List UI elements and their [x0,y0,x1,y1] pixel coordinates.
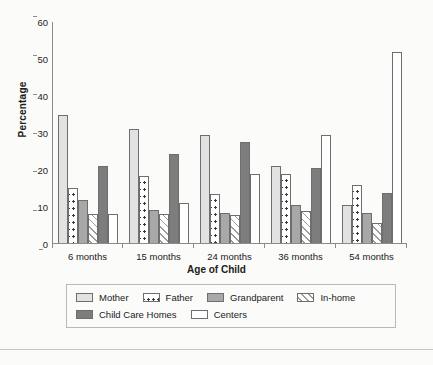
bar-54-months-centers [392,52,402,244]
bar-24-months-mother [200,135,210,244]
x-tick-mark [52,244,53,248]
bar-36-months-grandparent [291,205,301,244]
x-tick-label: 36 months [278,251,322,262]
x-tick-mark [264,244,265,248]
plot-area: Percentage 0102030405060 6 months15 mont… [0,0,433,285]
bar-24-months-child-care-homes [240,142,250,244]
legend-item-grandparent[interactable]: Grandparent [207,292,283,303]
bar-group-36-months: 36 months [265,22,336,244]
y-tick-label: 0 [43,239,48,250]
bar-54-months-child-care-homes [382,193,392,244]
bar-group-24-months: 24 months [194,22,265,244]
bar-54-months-mother [342,205,352,244]
bar-6-months-child-care-homes [98,166,108,244]
bar-24-months-grandparent [220,213,230,244]
legend-row-2: Child Care HomesCenters [76,309,386,320]
bar-6-months-mother [58,115,68,245]
bar-6-months-grandparent [78,200,88,244]
y-tick-mark [33,210,37,211]
legend-swatch-in-home [297,293,314,302]
figure: Percentage 0102030405060 6 months15 mont… [0,0,433,365]
legend-swatch-child-care-homes [76,310,93,319]
x-tick-mark [122,244,123,248]
bar-6-months-centers [108,214,118,244]
legend-label: In-home [320,292,355,303]
bar-24-months-centers [250,174,260,244]
bar-group-15-months: 15 months [123,22,194,244]
bar-15-months-grandparent [149,210,159,244]
y-tick-label: 60 [37,17,48,28]
bar-54-months-in-home [372,223,382,244]
y-tick-mark [39,249,43,250]
legend-row-1: MotherFatherGrandparentIn-home [76,292,386,303]
bar-54-months-grandparent [362,213,372,244]
legend-item-centers[interactable]: Centers [191,309,247,320]
x-tick-label: 6 months [68,251,107,262]
axes: 0102030405060 6 months15 months24 months… [52,22,407,244]
legend-swatch-centers [191,310,208,319]
bar-36-months-child-care-homes [311,168,321,244]
bar-15-months-centers [179,203,189,244]
y-tick-mark [33,133,37,134]
legend-swatch-grandparent [207,293,224,302]
y-tick-label: 10 [37,202,48,213]
x-tick-mark [406,244,407,248]
legend-label: Grandparent [230,292,283,303]
y-tick-label: 30 [37,128,48,139]
y-tick-mark [33,55,37,56]
y-tick-mark [33,171,37,172]
bar-group-6-months: 6 months [52,22,123,244]
x-axis-title: Age of Child [0,264,433,275]
x-tick-label: 15 months [136,251,180,262]
x-tick-label: 24 months [207,251,251,262]
bar-36-months-centers [321,135,331,244]
legend-swatch-mother [76,293,93,302]
legend: MotherFatherGrandparentIn-homeChild Care… [66,284,396,328]
bar-36-months-in-home [301,211,311,244]
bar-groups: 6 months15 months24 months36 months54 mo… [52,22,407,244]
legend-item-father[interactable]: Father [143,292,193,303]
y-tick-mark [33,94,37,95]
legend-label: Father [166,292,193,303]
bar-54-months-father [352,185,362,244]
legend-item-child-care-homes[interactable]: Child Care Homes [76,309,177,320]
y-tick-mark [33,16,37,17]
legend-item-in-home[interactable]: In-home [297,292,355,303]
bar-15-months-mother [129,129,139,244]
bar-15-months-father [139,176,149,244]
y-tick-label: 50 [37,53,48,64]
y-tick-label: 20 [37,164,48,175]
y-tick-label: 40 [37,90,48,101]
x-tick-mark [193,244,194,248]
bar-24-months-in-home [230,215,240,244]
legend-swatch-father [143,293,160,302]
bar-group-54-months: 54 months [336,22,407,244]
x-tick-label: 54 months [349,251,393,262]
y-axis-title: Percentage [17,55,28,165]
bar-15-months-child-care-homes [169,154,179,244]
bar-24-months-father [210,194,220,244]
bar-6-months-in-home [88,214,98,244]
bar-36-months-mother [271,166,281,244]
legend-label: Centers [214,309,247,320]
bar-15-months-in-home [159,214,169,244]
x-tick-mark [335,244,336,248]
bar-36-months-father [281,174,291,244]
legend-item-mother[interactable]: Mother [76,292,129,303]
legend-label: Child Care Homes [99,309,177,320]
bar-6-months-father [68,188,78,244]
footer-divider [0,349,433,350]
legend-label: Mother [99,292,129,303]
